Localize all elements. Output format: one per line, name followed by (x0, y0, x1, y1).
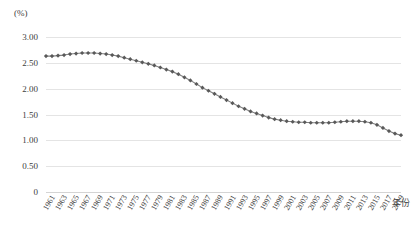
y-axis-tick: 3.00 (22, 33, 38, 42)
data-point-marker (116, 54, 120, 58)
data-point-marker (315, 121, 319, 125)
data-point-marker (285, 119, 289, 123)
series-line (46, 53, 401, 135)
data-point-marker (291, 120, 295, 124)
data-point-marker (134, 59, 138, 63)
data-point-marker (273, 117, 277, 121)
data-point-marker (128, 57, 132, 61)
data-point-marker (363, 120, 367, 124)
data-point-marker (248, 109, 252, 113)
data-point-marker (303, 120, 307, 124)
line-chart: (%) 3.002.502.001.501.000.500 1961196319… (0, 0, 418, 250)
data-point-marker (212, 92, 216, 96)
data-point-marker (267, 116, 271, 120)
series-markers (44, 51, 403, 137)
data-point-marker (182, 75, 186, 79)
data-point-marker (339, 120, 343, 124)
data-point-marker (104, 52, 108, 56)
data-point-marker (122, 56, 126, 60)
data-point-marker (297, 120, 301, 124)
y-axis-tick: 1.00 (22, 136, 38, 145)
data-point-marker (345, 119, 349, 123)
data-point-marker (158, 65, 162, 69)
data-point-marker (56, 54, 60, 58)
y-axis-tick: 2.50 (22, 58, 38, 67)
data-point-marker (170, 70, 174, 74)
data-point-marker (381, 126, 385, 130)
y-axis-tick: 0.50 (22, 162, 38, 171)
data-point-marker (393, 132, 397, 136)
data-point-marker (98, 51, 102, 55)
data-point-marker (254, 111, 258, 115)
series-birth-rate (46, 37, 401, 192)
data-point-marker (369, 121, 373, 125)
data-point-marker (279, 118, 283, 122)
data-point-marker (357, 119, 361, 123)
data-point-marker (140, 60, 144, 64)
data-point-marker (80, 51, 84, 55)
data-point-marker (164, 67, 168, 71)
data-point-marker (321, 121, 325, 125)
data-point-marker (146, 62, 150, 66)
data-point-marker (309, 121, 313, 125)
data-point-marker (230, 101, 234, 105)
y-axis-tick: 0 (34, 188, 39, 197)
data-point-marker (333, 120, 337, 124)
y-axis-tick: 2.00 (22, 84, 38, 93)
data-point-marker (62, 53, 66, 57)
data-point-marker (74, 51, 78, 55)
data-point-marker (86, 51, 90, 55)
y-axis-tick: 1.50 (22, 110, 38, 119)
data-point-marker (92, 51, 96, 55)
data-point-marker (152, 63, 156, 67)
data-point-marker (50, 54, 54, 58)
plot-area (46, 37, 401, 192)
data-point-marker (351, 119, 355, 123)
gridline (46, 192, 401, 193)
data-point-marker (236, 104, 240, 108)
data-point-marker (224, 98, 228, 102)
y-axis-tick-labels: 3.002.502.001.501.000.500 (0, 37, 42, 192)
data-point-marker (110, 53, 114, 57)
data-point-marker (242, 107, 246, 111)
data-point-marker (44, 54, 48, 58)
y-axis-unit-label: (%) (14, 8, 28, 18)
data-point-marker (206, 89, 210, 93)
data-point-marker (218, 95, 222, 99)
data-point-marker (261, 113, 265, 117)
data-point-marker (375, 123, 379, 127)
data-point-marker (68, 52, 72, 56)
x-axis-title: 年份 (392, 196, 410, 209)
data-point-marker (176, 72, 180, 76)
data-point-marker (387, 129, 391, 133)
x-axis-tick-labels: 1961196319651967196919711973197519771979… (46, 194, 401, 240)
data-point-marker (399, 133, 403, 137)
data-point-marker (327, 121, 331, 125)
